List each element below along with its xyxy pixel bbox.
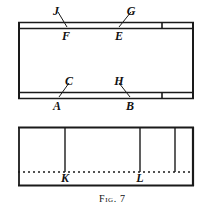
label-b: B: [126, 100, 134, 112]
figure-page: J G F E C H A B K L Fig. 7: [0, 0, 224, 210]
figure-caption-number: 7: [120, 193, 125, 204]
label-c: C: [65, 75, 73, 87]
upper-top-leader-lines: [58, 12, 131, 27]
leader-j-to-f: [58, 12, 67, 27]
lower-vertical-dividers: [65, 128, 175, 172]
lower-rectangle-outline: [18, 127, 194, 186]
label-f: F: [62, 30, 70, 42]
label-a: A: [53, 100, 61, 112]
label-h: H: [114, 75, 123, 87]
figure-caption-prefix: Fig.: [99, 193, 117, 204]
label-k: K: [61, 172, 69, 184]
label-j: J: [53, 5, 59, 17]
upper-rectangle-outline: [18, 22, 194, 99]
figure-line-art: [0, 0, 224, 210]
label-g: G: [127, 5, 136, 17]
label-e: E: [115, 30, 123, 42]
label-l: L: [136, 172, 143, 184]
figure-caption: Fig. 7: [99, 193, 125, 204]
